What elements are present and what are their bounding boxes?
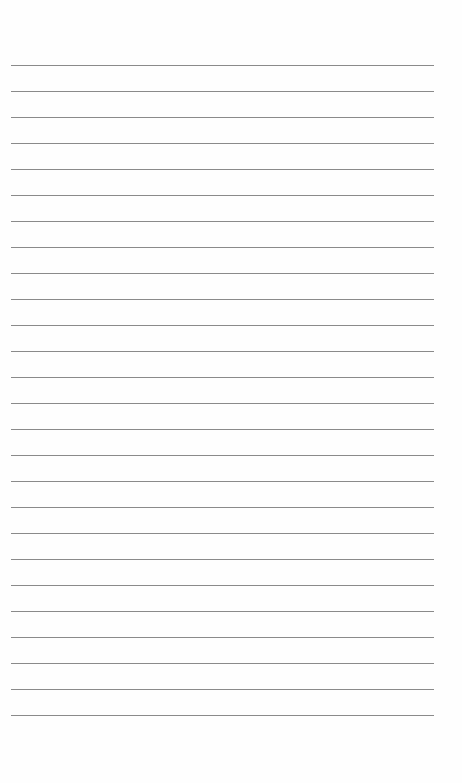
ruled-line	[11, 559, 434, 560]
ruled-line	[11, 663, 434, 664]
ruled-line	[11, 117, 434, 118]
ruled-line	[11, 195, 434, 196]
ruled-line	[11, 247, 434, 248]
ruled-line	[11, 273, 434, 274]
ruled-line	[11, 429, 434, 430]
ruled-line	[11, 611, 434, 612]
lined-paper-page	[0, 0, 462, 783]
ruled-line	[11, 221, 434, 222]
ruled-line	[11, 481, 434, 482]
ruled-line	[11, 143, 434, 144]
ruled-line	[11, 637, 434, 638]
ruled-line	[11, 689, 434, 690]
ruled-line	[11, 91, 434, 92]
ruled-line	[11, 455, 434, 456]
ruled-line	[11, 507, 434, 508]
ruled-line	[11, 715, 434, 716]
ruled-line	[11, 377, 434, 378]
ruled-line	[11, 403, 434, 404]
ruled-line	[11, 299, 434, 300]
ruled-line	[11, 533, 434, 534]
ruled-line	[11, 169, 434, 170]
ruled-line	[11, 585, 434, 586]
ruled-line	[11, 325, 434, 326]
ruled-line	[11, 65, 434, 66]
ruled-line	[11, 351, 434, 352]
